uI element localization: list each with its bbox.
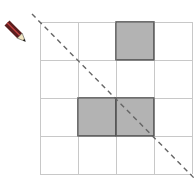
shaded-cell [116,98,154,136]
pencil-icon [5,21,28,44]
diagonal-dashed-line [32,14,196,180]
shaded-cell [116,22,154,60]
grid-diagram [0,0,196,180]
grid-canvas [0,0,196,180]
shaded-cell [78,98,116,136]
